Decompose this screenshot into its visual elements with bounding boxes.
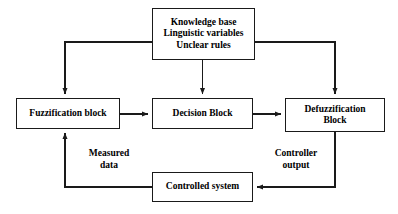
node-defuzzification-block-label: Defuzzification Block <box>302 104 367 127</box>
fuzzy-control-block-diagram: Knowledge base Linguistic variables Uncl… <box>0 0 398 214</box>
node-decision-block-label: Decision Block <box>171 108 235 120</box>
node-knowledge-base[interactable]: Knowledge base Linguistic variables Uncl… <box>152 8 255 60</box>
node-controlled-system[interactable]: Controlled system <box>152 172 253 202</box>
node-decision-block[interactable]: Decision Block <box>152 98 253 129</box>
node-fuzzification-block[interactable]: Fuzzification block <box>16 98 120 129</box>
edge-label-controller-output: Controller output <box>264 148 328 171</box>
edge-knowledge-to-fuzzification <box>65 42 152 94</box>
node-fuzzification-block-label: Fuzzification block <box>27 108 108 120</box>
node-defuzzification-block[interactable]: Defuzzification Block <box>285 98 385 132</box>
node-knowledge-base-label: Knowledge base Linguistic variables Uncl… <box>162 17 246 52</box>
edge-label-measured-data: Measured data <box>78 148 140 171</box>
edge-knowledge-to-defuzzification <box>255 42 335 94</box>
node-controlled-system-label: Controlled system <box>164 181 241 193</box>
